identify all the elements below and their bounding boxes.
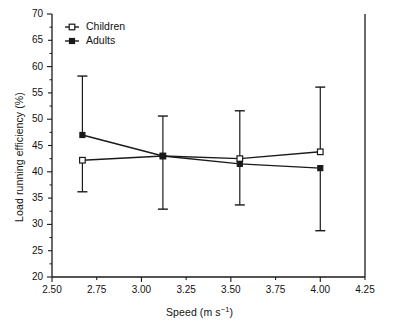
y-tick-label: 25	[17, 245, 43, 256]
x-axis-label: Speed (m s−1)	[166, 306, 233, 318]
y-tick-label: 70	[17, 8, 43, 19]
x-tick-label: 4.25	[345, 284, 385, 295]
x-tick-label: 2.50	[32, 284, 72, 295]
x-tick-label: 3.75	[256, 284, 296, 295]
series-line-children	[82, 152, 320, 160]
x-tick-label: 4.00	[300, 284, 340, 295]
data-point-adults	[318, 166, 323, 171]
y-tick-label: 50	[17, 113, 43, 124]
y-tick-label: 35	[17, 192, 43, 203]
legend-marker-group	[65, 24, 79, 43]
x-axis-label-wrapper: Speed (m s−1)	[0, 302, 399, 320]
y-tick-label: 65	[17, 34, 43, 45]
y-tick-label: 45	[17, 140, 43, 151]
data-point-children	[80, 157, 86, 163]
x-label-superscript: −1	[221, 305, 230, 314]
legend-marker-children	[69, 24, 75, 30]
legend-label-adults: Adults	[86, 34, 115, 46]
x-tick-label: 3.50	[211, 284, 251, 295]
x-tick-label: 3.25	[166, 284, 206, 295]
legend-label-children: Children	[86, 20, 125, 32]
data-series-group	[77, 76, 325, 231]
series-line-adults	[82, 135, 320, 168]
y-tick-label: 55	[17, 87, 43, 98]
axes-group	[47, 14, 365, 282]
data-point-adults	[237, 161, 242, 166]
data-point-children	[237, 156, 243, 162]
x-tick-label: 2.75	[77, 284, 117, 295]
data-point-adults	[160, 154, 165, 159]
chart-plot-area	[0, 0, 399, 331]
y-tick-label: 60	[17, 61, 43, 72]
data-point-adults	[80, 132, 85, 137]
y-tick-label: 30	[17, 218, 43, 229]
y-tick-label: 20	[17, 271, 43, 282]
x-tick-label: 3.00	[121, 284, 161, 295]
figure-canvas: Load running efficiency (%) Speed (m s−1…	[0, 0, 399, 331]
data-point-children	[317, 149, 323, 155]
legend-marker-adults	[70, 39, 75, 44]
y-tick-label: 40	[17, 166, 43, 177]
